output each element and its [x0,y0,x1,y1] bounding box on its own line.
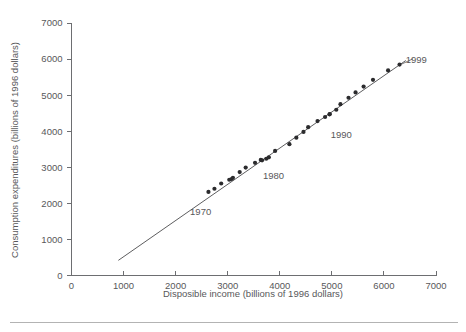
data-point [231,176,235,180]
data-point [362,84,366,88]
y-tick-label: 4000 [41,126,62,137]
y-tick-label: 6000 [41,53,62,64]
data-point [386,68,390,72]
y-tick-label: 2000 [41,198,62,209]
y-tick-label: 1000 [41,234,62,245]
data-point [227,178,231,182]
annotation-label-1980: 1980 [263,170,284,181]
x-tick-label: 1000 [113,280,134,291]
data-point [219,181,223,185]
data-point [327,112,331,116]
data-point [334,108,338,112]
x-axis-title: Disposible income (billions of 1996 doll… [163,288,343,299]
data-point [206,190,210,194]
data-point [397,62,401,66]
data-point [338,102,342,106]
y-tick-label: 3000 [41,162,62,173]
data-point [238,170,242,174]
scatter-chart-figure: 01000200030004000500060007000 0100020003… [0,0,466,332]
data-point [346,96,350,100]
y-axis-title: Consumption expenditures (billions of 19… [9,42,20,258]
x-tick-label: 6000 [373,280,394,291]
data-point [315,119,319,123]
annotation-label-1970: 1970 [190,206,211,217]
data-point [294,136,298,140]
y-tick-label: 5000 [41,90,62,101]
data-point [244,165,248,169]
annotation-label-1990: 1990 [331,129,352,140]
data-point [212,187,216,191]
data-point [301,130,305,134]
data-point [353,90,357,94]
y-tick-label: 7000 [41,17,62,28]
data-point [306,125,310,129]
chart-svg: 01000200030004000500060007000 0100020003… [0,0,466,332]
data-point [273,149,277,153]
data-point [287,142,291,146]
x-tick-label: 7000 [425,280,446,291]
data-point [323,115,327,119]
data-point [260,158,264,162]
x-tick-label: 0 [69,280,74,291]
y-tick-label: 0 [57,270,62,281]
data-point [253,161,257,165]
data-point [267,155,271,159]
data-point [371,78,375,82]
annotation-label-1999: 1999 [406,54,427,65]
